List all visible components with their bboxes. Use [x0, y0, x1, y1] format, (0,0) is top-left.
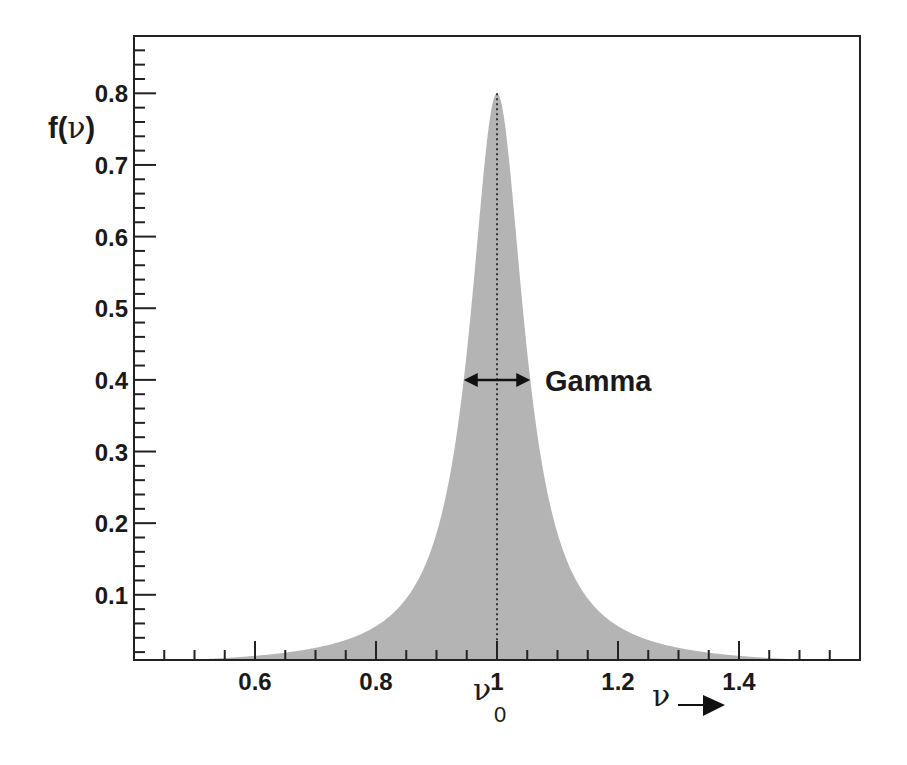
svg-text:0.8: 0.8 — [95, 80, 128, 107]
svg-text:0.6: 0.6 — [238, 668, 271, 695]
x-axis-arrow-icon — [678, 695, 725, 716]
y-axis-ticks — [134, 36, 156, 652]
svg-text:1.4: 1.4 — [722, 668, 756, 695]
nu0-subscript: 0 — [494, 702, 506, 727]
svg-text:1.2: 1.2 — [601, 668, 634, 695]
svg-text:0.5: 0.5 — [95, 295, 128, 322]
x-axis-tick-labels: 0.60.811.21.4 — [238, 668, 756, 695]
svg-text:0.8: 0.8 — [359, 668, 392, 695]
y-axis-title: f(ν) — [48, 110, 95, 145]
y-axis-tick-labels: 0.10.20.30.40.50.60.70.8 — [95, 80, 129, 608]
svg-text:0.2: 0.2 — [95, 510, 128, 537]
svg-text:0.3: 0.3 — [95, 439, 128, 466]
x-axis-title: ν — [652, 678, 670, 713]
svg-text:0.4: 0.4 — [95, 367, 129, 394]
chart-canvas: 0.10.20.30.40.50.60.70.8 0.60.811.21.4 f… — [0, 0, 907, 765]
svg-text:0.6: 0.6 — [95, 224, 128, 251]
svg-text:0.7: 0.7 — [95, 152, 128, 179]
nu0-label: ν — [473, 672, 491, 707]
gamma-label: Gamma — [545, 365, 652, 397]
svg-text:0.1: 0.1 — [95, 582, 128, 609]
svg-text:1: 1 — [490, 668, 503, 695]
